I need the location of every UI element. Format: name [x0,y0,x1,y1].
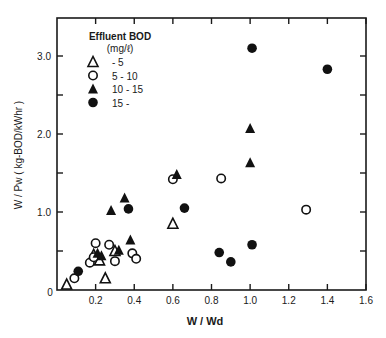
legend-entry-label: - 5 [112,57,124,68]
x-tick-label: 0.6 [166,295,180,306]
open-circle-marker [91,239,99,247]
legend-entry-label: 10 - 15 [112,84,144,95]
filled-circle-marker [73,266,83,276]
x-tick-label: 1.6 [359,295,373,306]
y-tick-label: 3.0 [37,51,51,62]
legend-filled-triangle-icon [88,84,98,94]
y-axis-label: W / Pw ( kg-BOD/kWhr ) [13,101,24,209]
filled-circle-marker [226,257,236,267]
open-circle-marker [105,241,113,249]
legend-filled-circle-icon [88,98,98,108]
series-open-circle [70,174,310,282]
filled-circle-marker [323,64,333,74]
x-tick-label: 1.4 [320,295,334,306]
open-circle-marker [132,255,140,263]
scatter-chart: 0.20.40.60.81.01.21.41.6 1.02.03.0 Efflu… [0,0,386,338]
series-filled-triangle [93,123,256,260]
data-points [62,43,333,289]
open-circle-marker [217,174,225,182]
filled-circle-marker [214,248,224,258]
plot-frame [57,18,366,290]
open-triangle-marker [100,273,110,283]
x-tick-label: 0.8 [205,295,219,306]
plot-border [57,18,366,290]
filled-triangle-marker [245,123,255,133]
filled-circle-marker [124,204,134,214]
filled-triangle-marker [125,235,135,245]
y-tick-label: 2.0 [37,129,51,140]
filled-circle-marker [247,240,257,250]
filled-triangle-marker [120,192,130,202]
x-tick-label: 1.2 [282,295,296,306]
y-tick-label: 1.0 [37,207,51,218]
open-circle-marker [111,257,119,265]
legend-subtitle: (mg/ℓ) [107,43,134,54]
legend-title: Effluent BOD [89,31,151,42]
filled-triangle-marker [172,169,182,179]
x-tick-label: 0.2 [89,295,103,306]
open-triangle-marker [168,218,178,228]
filled-triangle-marker [245,157,255,167]
filled-circle-marker [247,43,257,53]
origin-label: 0 [47,287,53,298]
filled-triangle-marker [106,205,116,215]
x-tick-label: 0.4 [127,295,141,306]
filled-circle-marker [180,203,190,213]
legend-entry-label: 15 - [112,98,129,109]
open-circle-marker [302,205,310,213]
x-axis-label: W / Wd [187,315,224,327]
x-tick-label: 1.0 [243,295,257,306]
y-axis-ticks: 1.02.03.0 [37,51,366,251]
legend-entry-label: 5 - 10 [112,71,138,82]
legend-open-triangle-icon [88,57,98,67]
legend-open-circle-icon [89,71,97,79]
legend: Effluent BOD(mg/ℓ)- 55 - 1010 - 1515 - [88,31,151,109]
